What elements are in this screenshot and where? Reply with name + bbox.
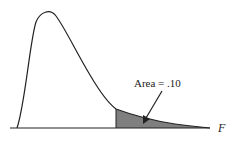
f-distribution-chart: Area = .10 F [0,0,232,142]
x-axis-label: F [217,121,226,135]
density-curve [17,12,210,128]
shaded-tail-area [116,109,210,128]
annotation-arrow [146,91,162,118]
area-label: Area = .10 [134,77,181,89]
